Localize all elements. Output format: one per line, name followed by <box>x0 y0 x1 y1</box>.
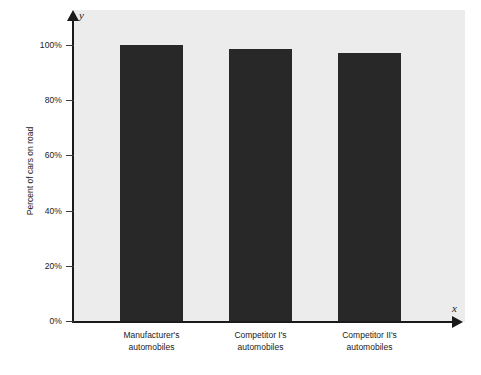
y-tick-label: 80% <box>45 95 62 105</box>
y-tick-mark <box>66 266 74 267</box>
bar <box>338 53 401 321</box>
category-label-line: Manufacturer's <box>97 330 207 342</box>
category-label-line: automobiles <box>206 342 316 354</box>
bar <box>120 45 183 321</box>
category-label: Competitor I'sautomobiles <box>206 330 316 353</box>
category-label-line: Competitor I's <box>206 330 316 342</box>
x-axis-arrowhead-icon <box>452 316 463 328</box>
y-tick-label: 0% <box>50 316 63 326</box>
y-axis-title: Percent of cars on road <box>25 81 35 261</box>
y-tick-label: 20% <box>45 261 62 271</box>
category-label-line: Competitor II's <box>315 330 425 342</box>
y-axis-arrowhead-icon <box>67 10 79 21</box>
category-label: Competitor II'sautomobiles <box>315 330 425 353</box>
y-tick-mark <box>66 321 74 322</box>
bar <box>229 49 292 321</box>
category-label-line: automobiles <box>315 342 425 354</box>
y-tick-mark <box>66 100 74 101</box>
y-tick-mark <box>66 45 74 46</box>
y-tick-label: 60% <box>45 150 62 160</box>
y-axis-line <box>72 18 74 323</box>
y-tick-mark <box>66 155 74 156</box>
x-axis-variable-label: x <box>452 302 457 314</box>
bar-chart-figure: y x Percent of cars on road 0%20%40%60%8… <box>0 0 481 375</box>
y-tick-label: 100% <box>40 40 62 50</box>
x-axis-line <box>72 321 454 323</box>
y-tick-mark <box>66 211 74 212</box>
category-label-line: automobiles <box>97 342 207 354</box>
y-axis-variable-label: y <box>79 9 84 21</box>
y-tick-label: 40% <box>45 206 62 216</box>
category-label: Manufacturer'sautomobiles <box>97 330 207 353</box>
